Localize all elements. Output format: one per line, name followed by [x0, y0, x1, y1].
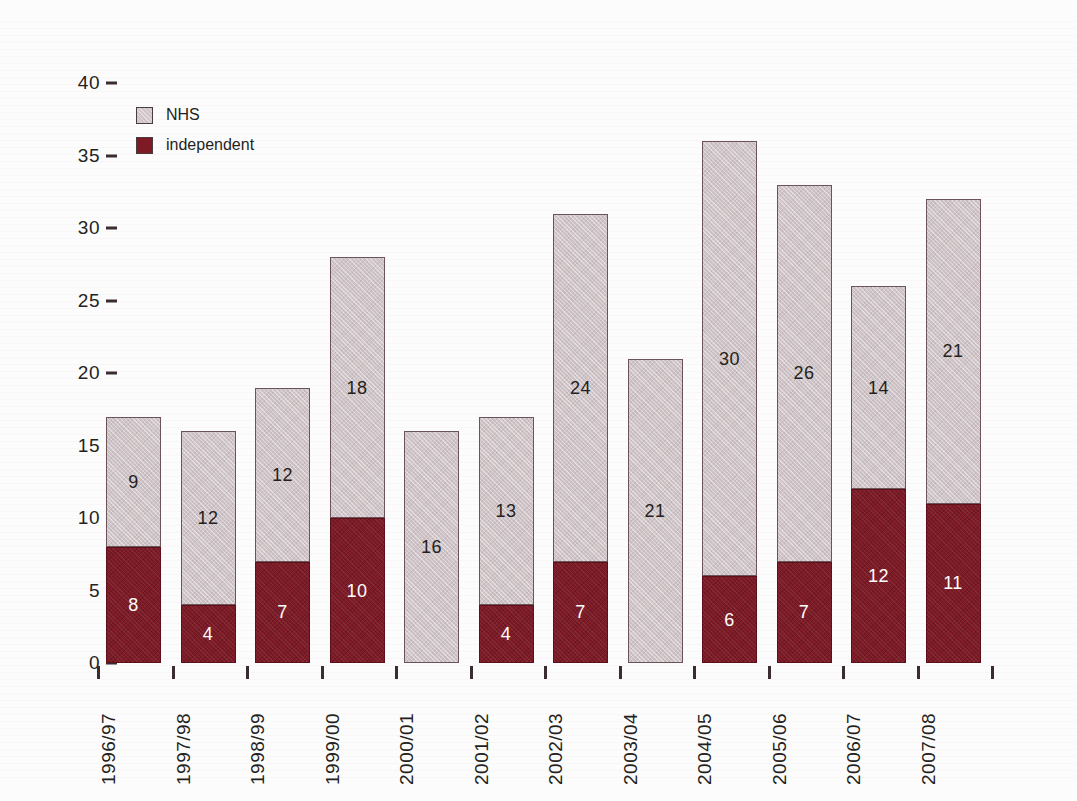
bar-value-label-nhs: 12 — [197, 509, 218, 527]
bar-value-label-independent: 7 — [575, 603, 586, 621]
bar-segment-nhs[interactable]: 13 — [479, 417, 534, 606]
bar-1997-98[interactable]: 124 — [181, 431, 236, 663]
y-axis-tick-label: 20 — [48, 362, 100, 384]
bar-2000-01[interactable]: 16 — [404, 431, 459, 663]
bar-2006-07[interactable]: 1412 — [851, 286, 906, 663]
legend-swatch-icon — [136, 107, 153, 124]
x-axis-label: 1997/98 — [173, 649, 195, 789]
bar-value-label-independent: 6 — [724, 611, 735, 629]
bar-value-label-independent: 7 — [799, 603, 810, 621]
bar-segment-nhs[interactable]: 24 — [553, 214, 608, 562]
bar-value-label-nhs: 9 — [128, 473, 139, 491]
y-axis-tick-mark — [106, 299, 117, 302]
bar-value-label-independent: 7 — [277, 603, 288, 621]
bar-segment-independent[interactable]: 12 — [851, 489, 906, 663]
bar-2004-05[interactable]: 306 — [702, 141, 757, 663]
y-axis-tick-label: 15 — [48, 435, 100, 457]
y-axis-tick-mark — [106, 82, 117, 85]
bar-segment-independent[interactable]: 11 — [926, 504, 981, 664]
bar-segment-nhs[interactable]: 26 — [777, 185, 832, 562]
bar-segment-nhs[interactable]: 18 — [330, 257, 385, 518]
bar-2007-08[interactable]: 2111 — [926, 199, 981, 663]
x-axis-label: 2006/07 — [843, 649, 865, 789]
bar-segment-nhs[interactable]: 21 — [628, 359, 683, 664]
bar-2003-04[interactable]: 21 — [628, 359, 683, 664]
bar-1999-00[interactable]: 1810 — [330, 257, 385, 663]
bar-segment-nhs[interactable]: 30 — [702, 141, 757, 576]
bar-segment-independent[interactable]: 7 — [777, 562, 832, 664]
x-axis-label: 1996/97 — [98, 649, 120, 789]
bar-value-label-nhs: 13 — [495, 502, 516, 520]
bar-value-label-nhs: 18 — [346, 379, 367, 397]
stacked-bar-chart: 0510152025303540 NHSindependent 98124127… — [0, 0, 1077, 801]
y-axis-tick-label: 40 — [48, 72, 100, 94]
legend-swatch-icon — [136, 137, 153, 154]
bar-segment-nhs[interactable]: 9 — [106, 417, 161, 548]
bar-value-label-nhs: 16 — [421, 538, 442, 556]
bar-value-label-nhs: 21 — [942, 342, 963, 360]
x-axis-label: 1999/00 — [322, 649, 344, 789]
y-axis-tick-mark — [106, 372, 117, 375]
bar-value-label-independent: 4 — [501, 625, 512, 643]
bar-segment-independent[interactable]: 10 — [330, 518, 385, 663]
legend-item-nhs[interactable]: NHS — [136, 100, 254, 130]
bar-segment-nhs[interactable]: 12 — [255, 388, 310, 562]
y-axis-tick-label: 30 — [48, 217, 100, 239]
y-axis-tick-label: 0 — [48, 652, 100, 674]
bar-value-label-nhs: 12 — [272, 466, 293, 484]
y-axis-tick-label: 35 — [48, 145, 100, 167]
bar-value-label-nhs: 30 — [719, 350, 740, 368]
bar-value-label-nhs: 26 — [793, 364, 814, 382]
x-axis-label: 2001/02 — [471, 649, 493, 789]
x-axis-label: 1998/99 — [247, 649, 269, 789]
chart-legend: NHSindependent — [136, 100, 254, 160]
x-axis-label: 2005/06 — [769, 649, 791, 789]
chart-page: 0510152025303540 NHSindependent 98124127… — [0, 0, 1077, 801]
bar-segment-nhs[interactable]: 14 — [851, 286, 906, 489]
bar-1998-99[interactable]: 127 — [255, 388, 310, 664]
bar-segment-independent[interactable]: 8 — [106, 547, 161, 663]
bar-1996-97[interactable]: 98 — [106, 417, 161, 664]
legend-label: NHS — [166, 106, 200, 124]
bar-value-label-independent: 12 — [868, 567, 889, 585]
bar-segment-nhs[interactable]: 16 — [404, 431, 459, 663]
y-axis-tick-label: 25 — [48, 290, 100, 312]
y-axis-tick-mark — [106, 227, 117, 230]
x-axis-label: 2007/08 — [918, 649, 940, 789]
x-axis-label: 2004/05 — [694, 649, 716, 789]
y-axis-tick-label: 5 — [48, 580, 100, 602]
bar-2005-06[interactable]: 267 — [777, 185, 832, 664]
x-axis-label: 2003/04 — [620, 649, 642, 789]
bar-segment-nhs[interactable]: 21 — [926, 199, 981, 504]
bar-2002-03[interactable]: 247 — [553, 214, 608, 664]
bar-value-label-nhs: 14 — [868, 379, 889, 397]
bar-value-label-nhs: 24 — [570, 379, 591, 397]
bar-2001-02[interactable]: 134 — [479, 417, 534, 664]
legend-label: independent — [166, 136, 254, 154]
bar-value-label-independent: 4 — [203, 625, 214, 643]
y-axis-tick-label: 10 — [48, 507, 100, 529]
x-axis-label: 2002/03 — [545, 649, 567, 789]
bar-segment-independent[interactable]: 7 — [553, 562, 608, 664]
legend-item-independent[interactable]: independent — [136, 130, 254, 160]
bar-value-label-nhs: 21 — [644, 502, 665, 520]
bar-value-label-independent: 11 — [943, 574, 963, 592]
x-axis-tick-mark — [991, 666, 994, 679]
bar-segment-nhs[interactable]: 12 — [181, 431, 236, 605]
x-axis-label: 2000/01 — [396, 649, 418, 789]
y-axis-tick-mark — [106, 154, 117, 157]
bar-value-label-independent: 10 — [346, 582, 367, 600]
bar-segment-independent[interactable]: 7 — [255, 562, 310, 664]
bar-value-label-independent: 8 — [128, 596, 139, 614]
